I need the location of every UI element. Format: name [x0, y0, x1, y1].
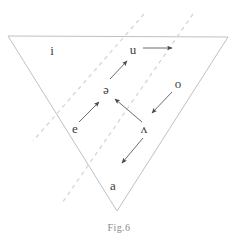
- vowel-diagram-canvas: [0, 0, 238, 249]
- vowel-label-schwa: ə: [103, 83, 109, 96]
- vowel-label-u: u: [130, 43, 137, 56]
- arrow-e-to-schwa: [79, 102, 99, 122]
- dashed-divider-lines: [33, 14, 193, 203]
- figure-caption: Fig.6: [0, 222, 238, 233]
- vowel-label-caret: ʌ: [141, 122, 148, 135]
- vowel-triangle-outline: [8, 36, 228, 211]
- arrow-schwa-to-u: [110, 61, 127, 79]
- arrow-caret-to-schwa: [115, 99, 142, 122]
- vowel-label-i: i: [50, 44, 54, 57]
- vowel-triangle-figure: iuoəeʌa Fig.6: [0, 0, 238, 249]
- vowel-shift-arrows: [79, 48, 172, 163]
- dashed-line-left: [33, 14, 144, 141]
- arrow-o-to-caret: [152, 92, 172, 113]
- vowel-label-a: a: [110, 179, 116, 192]
- dashed-line-right: [62, 14, 193, 203]
- vowel-label-o: o: [175, 77, 182, 90]
- arrow-caret-to-a: [122, 138, 143, 163]
- vowel-label-e: e: [72, 122, 78, 135]
